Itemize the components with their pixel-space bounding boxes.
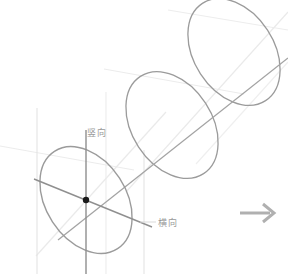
vertical-direction-label: 竖向 bbox=[87, 127, 106, 138]
horizontal-direction-label: 横向 bbox=[158, 217, 177, 228]
back-ellipse bbox=[169, 0, 288, 122]
diagram-root: 竖向 横向 bbox=[0, 0, 288, 274]
construction-layer bbox=[0, 10, 288, 274]
upper-mid-ray bbox=[104, 69, 244, 94]
right-arrow bbox=[240, 204, 274, 222]
top-right-ray bbox=[168, 10, 288, 30]
middle-ellipse-group bbox=[107, 55, 237, 196]
diag-guide-far bbox=[196, 62, 288, 164]
ellipse-center-dot bbox=[83, 197, 89, 203]
middle-ellipse bbox=[107, 55, 237, 196]
ellipse-orientation-diagram: 竖向 横向 bbox=[0, 0, 288, 274]
front-ellipse-group bbox=[21, 130, 152, 274]
back-ellipse-group bbox=[169, 0, 288, 122]
upper-left-ray bbox=[0, 146, 134, 170]
